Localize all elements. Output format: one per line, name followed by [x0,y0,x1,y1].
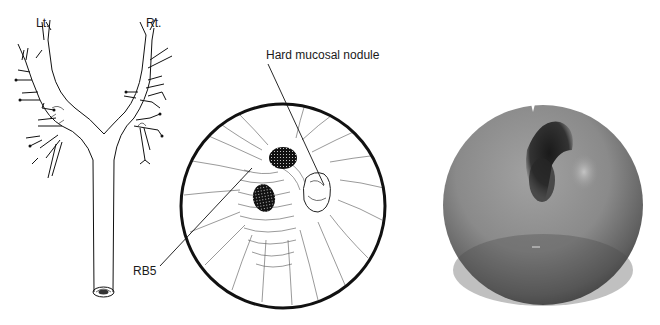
upper-orifice [269,147,297,169]
rb5-leader-line [160,168,252,266]
nodule-label: Hard mucosal nodule [266,48,380,62]
bronchoscopic-view-drawing: Hard mucosal nodule RB5 [133,48,385,308]
nodule-highlight [570,154,598,190]
rb5-orifice [251,182,278,213]
nodule-drawing [303,173,330,212]
rb5-label: RB5 [133,264,157,278]
bronchial-tree-drawing: Lt. Rt. [15,16,173,297]
bronchoscopic-photo [443,104,643,306]
figure-canvas: Lt. Rt. [0,0,660,325]
